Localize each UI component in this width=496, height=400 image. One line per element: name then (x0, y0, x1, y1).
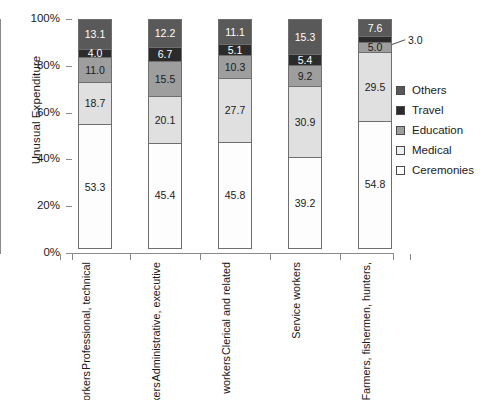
legend-item[interactable]: Travel (396, 100, 496, 120)
stacked-bar-chart: Unusual Expenditure 0%20%40%60%80%100% 1… (0, 0, 496, 400)
y-axis-tick-label: 60% (37, 106, 60, 118)
bar-segment[interactable]: 53.3 (78, 124, 112, 249)
bar-segment-value: 10.3 (225, 62, 245, 73)
x-axis-tick (72, 254, 73, 260)
bar-segment-value: 53.3 (85, 182, 105, 193)
y-axis-tick-label: 0% (43, 246, 60, 258)
bar-segment-value: 27.7 (225, 105, 245, 116)
legend-item-label: Travel (412, 104, 444, 116)
y-axis-tick-label: 20% (37, 199, 60, 211)
bar-segment[interactable]: 11.1 (218, 19, 252, 45)
callout-leader-line (392, 40, 405, 46)
bar-segment-value: 11.0 (85, 65, 105, 76)
bar-segment-value: 18.7 (85, 98, 105, 109)
bar-segment[interactable]: 39.2 (288, 157, 322, 249)
x-axis-line (72, 253, 394, 254)
bar-segment-value: 9.2 (298, 71, 313, 82)
bar-segment-value: 13.1 (85, 29, 105, 40)
bar-segment-value: 11.1 (225, 27, 245, 38)
bar-segment[interactable]: 12.2 (148, 19, 182, 48)
legend-swatch-icon (396, 106, 405, 115)
legend-swatch-icon (396, 146, 405, 155)
bar-segment-value: 45.4 (155, 190, 175, 201)
x-axis-category-label: Clerical and relatedworkers (219, 262, 253, 392)
bar-segment-value: 7.6 (368, 23, 383, 34)
callout-value-label: 3.0 (408, 34, 423, 46)
y-axis-tick (66, 113, 72, 114)
x-axis-category-label: Administrative, executiveand managerial … (149, 262, 183, 392)
y-axis-tick (66, 66, 72, 67)
x-axis-tick (340, 254, 341, 260)
x-axis-category-label: Farmers, fishermen, hunters,loggers and … (359, 262, 393, 392)
bar-segment-value: 30.9 (295, 117, 315, 128)
bar-segment[interactable]: 9.2 (288, 65, 322, 87)
bar-segment[interactable]: 11.0 (78, 57, 112, 83)
legend-item[interactable]: Others (396, 80, 496, 100)
x-axis-category-label-line: Farmers, fishermen, hunters, (359, 262, 374, 400)
legend-item[interactable]: Ceremonies (396, 160, 496, 180)
y-axis-tick-label: 100% (31, 12, 60, 24)
x-axis-category-label-line: and managerial workers (149, 382, 164, 400)
y-axis-tick-label: 40% (37, 152, 60, 164)
y-axis-tick (66, 206, 72, 207)
bar-segment[interactable]: 18.7 (78, 82, 112, 126)
x-axis-tick (410, 254, 411, 260)
bar-segment-value: 39.2 (295, 198, 315, 209)
bar-segment-value: 5.1 (228, 45, 243, 56)
bar-segment[interactable]: 30.9 (288, 86, 322, 158)
bar-segment[interactable]: 20.1 (148, 96, 182, 143)
x-axis-category-label-line: Service workers (289, 262, 304, 339)
bar-segment[interactable]: 15.3 (288, 19, 322, 55)
x-axis-tick (130, 254, 131, 260)
legend-item-label: Medical (412, 144, 452, 156)
x-axis-tick (270, 254, 271, 260)
legend-item[interactable]: Education (396, 120, 496, 140)
legend-item-label: Education (412, 124, 463, 136)
bar-segment[interactable]: 7.6 (358, 19, 392, 37)
bar-stack[interactable]: 7.63.05.029.554.8 (358, 19, 392, 253)
x-axis-category-label: Service workers (289, 262, 323, 392)
bar-stack[interactable]: 15.35.49.230.939.2 (288, 19, 322, 253)
bar-segment[interactable]: 27.7 (218, 78, 252, 143)
x-axis-category-label: Professional, technicaland related worke… (79, 262, 113, 392)
bar-segment[interactable]: 45.8 (218, 142, 252, 249)
x-axis-tick (393, 254, 394, 260)
legend-item[interactable]: Medical (396, 140, 496, 160)
bar-segment-value: 5.0 (368, 42, 383, 53)
y-axis-tick (66, 19, 72, 20)
x-axis-category-label-line: Administrative, executive (149, 262, 164, 381)
x-axis-tick (60, 254, 61, 260)
bar-segment-value: 29.5 (365, 82, 385, 93)
x-axis-tick (200, 254, 201, 260)
y-axis-tick (66, 159, 72, 160)
y-axis-tick-label: 80% (37, 59, 60, 71)
bar-segment[interactable]: 10.3 (218, 55, 252, 79)
bar-segment-value: 15.5 (155, 74, 175, 85)
bar-segment-value: 6.7 (158, 49, 173, 60)
x-axis-category-label-line: and related workers (79, 371, 94, 400)
legend-swatch-icon (396, 126, 405, 135)
bar-stack[interactable]: 12.26.715.520.145.4 (148, 19, 182, 253)
legend-swatch-icon (396, 166, 405, 175)
bar-segment-value: 15.3 (295, 32, 315, 43)
bar-segment[interactable]: 45.4 (148, 143, 182, 249)
legend-swatch-icon (396, 86, 405, 95)
bar-segment[interactable]: 15.5 (148, 61, 182, 97)
legend: OthersTravelEducationMedicalCeremonies (396, 80, 496, 180)
y-axis-line (0, 19, 1, 254)
bar-segment[interactable]: 54.8 (358, 121, 392, 249)
x-axis-category-label-line: Clerical and related (219, 262, 234, 355)
legend-item-label: Ceremonies (412, 164, 474, 176)
bar-segment-value: 45.8 (225, 190, 245, 201)
x-axis-category-label-line: workers (219, 356, 234, 394)
bar-segment-value: 12.2 (155, 28, 175, 39)
bar-segment[interactable]: 13.1 (78, 19, 112, 50)
bar-stack[interactable]: 11.15.110.327.745.8 (218, 19, 252, 253)
bar-stack[interactable]: 13.14.011.018.753.3 (78, 19, 112, 253)
legend-item-label: Others (412, 84, 447, 96)
bar-segment[interactable]: 29.5 (358, 52, 392, 121)
bar-segment[interactable]: 6.7 (148, 47, 182, 63)
x-axis-category-label-line: Professional, technical (79, 262, 94, 370)
bar-segment-value: 54.8 (365, 179, 385, 190)
bar-segment-value: 20.1 (155, 115, 175, 126)
